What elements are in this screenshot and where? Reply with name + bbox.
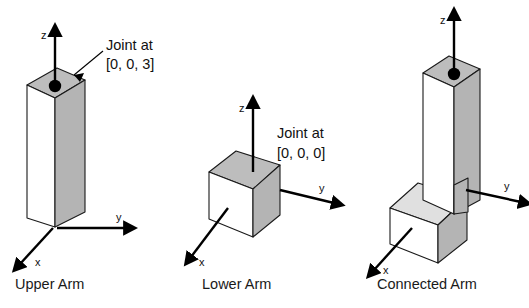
axis-y-label: y [504,180,510,192]
axis-z-label: z [41,29,47,41]
joint-callout-line1: Joint at [277,125,324,141]
robot-arm-figure: z Joint at [0, 0, 3] y x Upper Arm [0,0,529,308]
box-right-face [55,80,85,227]
axis-z-label: z [440,14,446,26]
caption-lower-arm: Lower Arm [202,276,271,292]
lower-arm-box [209,151,280,237]
panel-connected-arm: z y x Connected Arm [374,14,521,292]
axis-x-label: x [383,264,389,276]
axis-y-label: y [319,182,325,194]
joint-callout-line2: [0, 0, 0] [277,145,325,161]
joint-callout-line2: [0, 0, 3] [106,56,154,72]
joint-callout-line1: Joint at [106,37,153,53]
joint-callout-leader [74,51,103,82]
caption-upper-arm: Upper Arm [15,276,84,292]
joint-dot [49,80,61,92]
box-front-face [27,85,55,227]
caption-connected-arm: Connected Arm [377,276,477,292]
axis-x-upper: x [20,228,53,268]
axis-z-label: z [239,102,245,114]
axis-x-label: x [35,256,41,268]
figure-canvas: z Joint at [0, 0, 3] y x Upper Arm [0,0,529,308]
panel-lower-arm: z Joint at [0, 0, 0] y x Lower Arm [191,102,334,292]
joint-seam-plate [454,178,468,214]
upper-front-face [423,73,454,214]
axis-y-label: y [116,211,122,223]
axis-y-lower: y [280,182,334,203]
axis-x-label: x [199,256,205,268]
panel-upper-arm: z Joint at [0, 0, 3] y x Upper Arm [15,29,154,292]
joint-dot [448,68,460,80]
